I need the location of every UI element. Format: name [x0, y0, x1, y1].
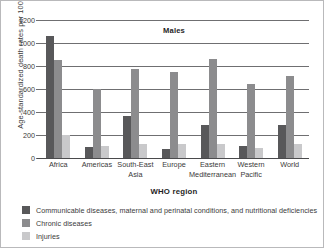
bar — [278, 125, 286, 158]
legend-swatch — [22, 206, 30, 214]
chart-title: Males — [39, 26, 309, 35]
plot-area: 020040060080010001200 Males — [39, 20, 309, 158]
x-axis-title: WHO region — [39, 187, 309, 196]
legend-label: Chronic diseases — [36, 219, 92, 228]
chart-legend: Communicable diseases, maternal and peri… — [22, 204, 317, 243]
bar — [85, 147, 93, 159]
y-tick-label: 800 — [23, 62, 35, 71]
bar — [255, 148, 263, 158]
legend-swatch — [22, 232, 30, 240]
legend-item: Communicable diseases, maternal and peri… — [22, 204, 317, 216]
bar-group — [123, 20, 147, 158]
y-tick-label: 1200 — [19, 16, 35, 25]
bar — [54, 60, 62, 158]
bar — [294, 144, 302, 158]
legend-label: Injuries — [36, 232, 60, 241]
bar — [209, 59, 217, 158]
bar — [247, 84, 255, 158]
legend-item: Injuries — [22, 230, 317, 242]
bar — [170, 72, 178, 158]
x-axis-line — [37, 158, 309, 159]
bar — [62, 135, 70, 158]
bar-series-container — [39, 20, 309, 158]
bar-group — [239, 20, 263, 158]
chart-figure: Age-standardized death rates per 100 000… — [0, 0, 324, 248]
legend-item: Chronic diseases — [22, 217, 317, 229]
bar — [286, 76, 294, 158]
bar-group — [162, 20, 186, 158]
bar — [93, 89, 101, 158]
y-tick-label: 1000 — [19, 39, 35, 48]
bar — [162, 149, 170, 158]
x-tick-label: World — [264, 160, 315, 170]
x-axis-tick-labels: AfricaAmericasSouth-East AsiaEuropeEaste… — [39, 160, 309, 186]
bar — [123, 116, 131, 158]
bar-group — [278, 20, 302, 158]
bar — [139, 144, 147, 158]
legend-swatch — [22, 219, 30, 227]
bar — [201, 125, 209, 158]
bar — [239, 146, 247, 158]
legend-label: Communicable diseases, maternal and peri… — [36, 206, 317, 215]
bar-group — [85, 20, 109, 158]
y-tick-label: 400 — [23, 108, 35, 117]
bar — [46, 36, 54, 158]
bar — [131, 69, 139, 158]
bar-group — [201, 20, 225, 158]
y-tick-label: 200 — [23, 131, 35, 140]
y-tick-label: 600 — [23, 85, 35, 94]
bar — [178, 144, 186, 158]
bar — [101, 146, 109, 158]
bar — [217, 144, 225, 158]
bar-group — [46, 20, 70, 158]
